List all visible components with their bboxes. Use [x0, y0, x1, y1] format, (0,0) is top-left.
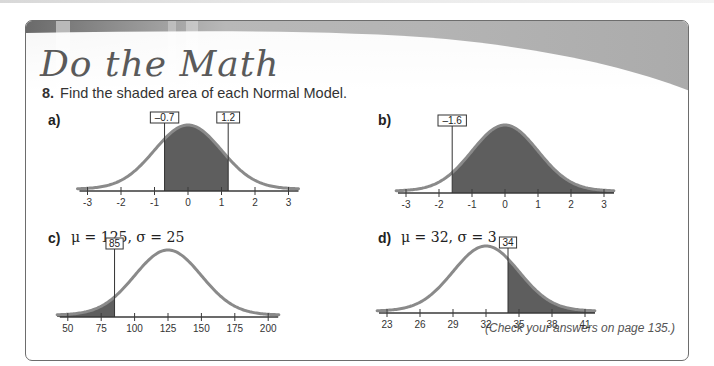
section-title: Do the Math	[40, 43, 279, 84]
do-the-math-panel: Do the Math 8.Find the shaded area of ea…	[25, 20, 689, 361]
part-d-label: d)	[378, 230, 391, 246]
part-c-params: μ = 125, σ = 25	[71, 229, 184, 245]
problem-statement: 8.Find the shaded area of each Normal Mo…	[42, 85, 347, 101]
problem-text: Find the shaded area of each Normal Mode…	[60, 85, 347, 101]
part-d-params: μ = 32, σ = 3	[401, 229, 497, 245]
check-answers-note: (Check your answers on page 135.)	[485, 321, 675, 335]
part-a-label: a)	[48, 112, 60, 128]
part-c-label: c)	[48, 230, 60, 246]
part-b-label: b)	[378, 112, 391, 128]
problem-number: 8.	[42, 85, 54, 101]
page-top-strip	[0, 0, 714, 3]
